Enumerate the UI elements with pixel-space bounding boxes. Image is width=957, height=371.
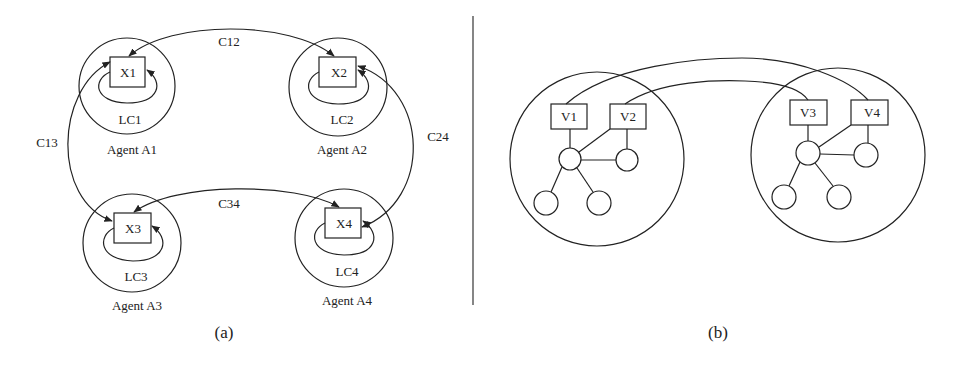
constraint-c13-edge bbox=[68, 62, 112, 221]
node-center bbox=[796, 141, 820, 165]
agent-a3: X3 LC3 Agent A3 bbox=[83, 194, 181, 313]
edge-center-right bbox=[820, 154, 854, 155]
node-center bbox=[559, 148, 581, 170]
node-right bbox=[854, 143, 878, 167]
variable-x4-label: X4 bbox=[336, 216, 352, 231]
variable-v2-label: V2 bbox=[620, 109, 636, 124]
variable-v4-label: V4 bbox=[864, 105, 880, 120]
edge-v2-node bbox=[579, 129, 610, 152]
agent-a4: X4 LC4 Agent A4 bbox=[295, 189, 393, 308]
agent-a1-label: Agent A1 bbox=[107, 142, 157, 157]
diagram-canvas: X1 LC1 Agent A1 X2 LC2 Agent A2 X3 LC3 A… bbox=[0, 0, 957, 371]
panel-a-caption: (a) bbox=[215, 323, 234, 342]
local-constraint-lc4-label: LC4 bbox=[335, 264, 359, 279]
variable-x2-label: X2 bbox=[331, 65, 347, 80]
constraint-c12-label: C12 bbox=[218, 34, 240, 49]
panel-b: V1 V2 V3 V4 (b bbox=[510, 58, 925, 342]
constraint-c24-label: C24 bbox=[427, 129, 449, 144]
panel-a: X1 LC1 Agent A1 X2 LC2 Agent A2 X3 LC3 A… bbox=[36, 29, 449, 342]
local-constraint-lc2-label: LC2 bbox=[330, 112, 353, 127]
node-bottom-right bbox=[587, 191, 611, 215]
constraint-c13-label: C13 bbox=[36, 135, 58, 150]
node-bottom-left bbox=[772, 185, 796, 209]
edge-center-bottom-left bbox=[551, 167, 562, 192]
panel-b-caption: (b) bbox=[708, 323, 728, 342]
variable-x1-label: X1 bbox=[120, 65, 136, 80]
node-bottom-right bbox=[827, 185, 851, 209]
agent-a3-label: Agent A3 bbox=[112, 298, 162, 313]
node-right bbox=[616, 149, 638, 171]
agent-a1: X1 LC1 Agent A1 bbox=[79, 38, 175, 157]
edge-v4-node bbox=[819, 125, 851, 147]
cluster-right: V3 V4 bbox=[751, 68, 925, 242]
edge-center-bottom-left bbox=[789, 162, 800, 186]
agent-a2: X2 LC2 Agent A2 bbox=[289, 38, 387, 157]
variable-x3-label: X3 bbox=[125, 221, 141, 236]
cluster-left-boundary bbox=[510, 72, 684, 246]
edge-center-bottom-right bbox=[577, 168, 593, 192]
local-constraint-lc3-label: LC3 bbox=[124, 269, 147, 284]
cluster-left: V1 V2 bbox=[510, 72, 684, 246]
agent-a4-label: Agent A4 bbox=[322, 293, 373, 308]
local-constraint-lc1-label: LC1 bbox=[118, 112, 141, 127]
variable-v1-label: V1 bbox=[561, 109, 577, 124]
node-bottom-left bbox=[534, 191, 558, 215]
constraint-c34-label: C34 bbox=[218, 196, 240, 211]
edge-center-bottom-right bbox=[815, 163, 833, 186]
agent-a2-label: Agent A2 bbox=[317, 142, 367, 157]
variable-v3-label: V3 bbox=[800, 105, 816, 120]
